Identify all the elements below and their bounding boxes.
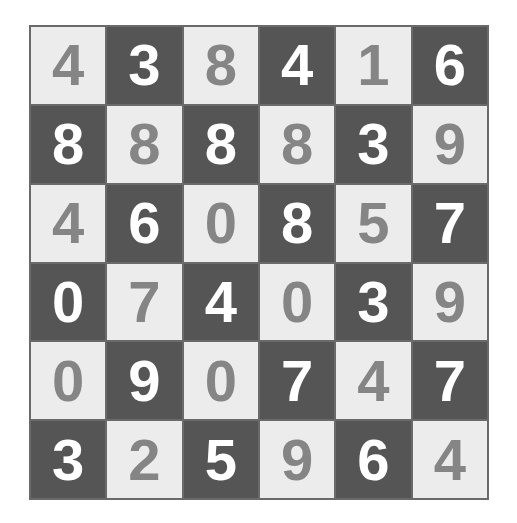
grid-cell-r0-c4[interactable]: 1 (336, 27, 410, 104)
grid-cell-r0-c3[interactable]: 4 (260, 27, 334, 104)
grid-cell-r0-c5[interactable]: 6 (413, 27, 487, 104)
number-grid-board: 438416888839460857074039090747325964 (29, 25, 489, 500)
grid-cell-r2-c5[interactable]: 7 (413, 185, 487, 262)
grid-cell-r2-c3[interactable]: 8 (260, 185, 334, 262)
grid-cell-r4-c4[interactable]: 4 (336, 342, 410, 419)
grid-cell-r3-c3[interactable]: 0 (260, 264, 334, 341)
grid-cell-r5-c4[interactable]: 6 (336, 421, 410, 498)
grid-cell-r0-c1[interactable]: 3 (107, 27, 181, 104)
grid-cell-r1-c5[interactable]: 9 (413, 106, 487, 183)
grid-cell-r4-c2[interactable]: 0 (184, 342, 258, 419)
grid-cell-r1-c2[interactable]: 8 (184, 106, 258, 183)
grid-cell-r4-c3[interactable]: 7 (260, 342, 334, 419)
grid-cell-r4-c1[interactable]: 9 (107, 342, 181, 419)
grid-cell-r3-c4[interactable]: 3 (336, 264, 410, 341)
grid-cell-r1-c0[interactable]: 8 (31, 106, 105, 183)
grid-cell-r4-c5[interactable]: 7 (413, 342, 487, 419)
grid-cell-r5-c0[interactable]: 3 (31, 421, 105, 498)
grid-cell-r5-c1[interactable]: 2 (107, 421, 181, 498)
grid-cell-r2-c1[interactable]: 6 (107, 185, 181, 262)
grid-cell-r5-c5[interactable]: 4 (413, 421, 487, 498)
grid-cell-r4-c0[interactable]: 0 (31, 342, 105, 419)
grid-cell-r1-c3[interactable]: 8 (260, 106, 334, 183)
grid-cell-r3-c5[interactable]: 9 (413, 264, 487, 341)
grid-cell-r2-c2[interactable]: 0 (184, 185, 258, 262)
grid-cell-r2-c4[interactable]: 5 (336, 185, 410, 262)
grid-cell-r3-c1[interactable]: 7 (107, 264, 181, 341)
grid-cell-r1-c1[interactable]: 8 (107, 106, 181, 183)
grid-cell-r5-c2[interactable]: 5 (184, 421, 258, 498)
grid-cell-r3-c2[interactable]: 4 (184, 264, 258, 341)
grid-cell-r2-c0[interactable]: 4 (31, 185, 105, 262)
grid-cell-r5-c3[interactable]: 9 (260, 421, 334, 498)
grid-cell-r1-c4[interactable]: 3 (336, 106, 410, 183)
grid-cell-r3-c0[interactable]: 0 (31, 264, 105, 341)
grid-cell-r0-c0[interactable]: 4 (31, 27, 105, 104)
grid-cell-r0-c2[interactable]: 8 (184, 27, 258, 104)
